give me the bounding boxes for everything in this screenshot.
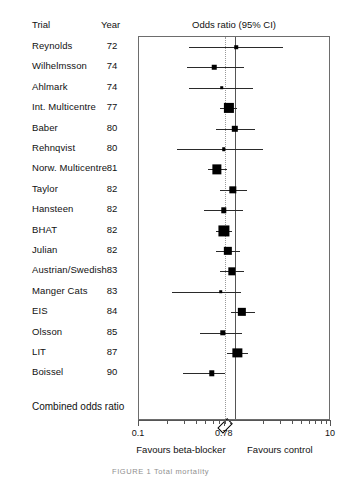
null-effect-line bbox=[235, 37, 236, 419]
study-row bbox=[139, 67, 329, 68]
column-header-trial: Trial bbox=[32, 19, 50, 30]
x-axis-major-tick bbox=[330, 420, 331, 426]
point-estimate-marker bbox=[229, 186, 236, 193]
study-name: Ahlmark bbox=[32, 81, 68, 92]
point-estimate-marker bbox=[221, 207, 226, 212]
forest-plot-figure: Trial Year Odds ratio (95% CI) Reynolds7… bbox=[0, 0, 353, 478]
point-estimate-marker bbox=[219, 225, 230, 236]
column-header-year: Year bbox=[101, 19, 120, 30]
x-axis-minor-tick bbox=[167, 420, 168, 424]
point-estimate-marker bbox=[220, 330, 225, 335]
point-estimate-marker bbox=[228, 268, 235, 275]
study-year: 90 bbox=[101, 366, 123, 377]
study-year: 85 bbox=[101, 326, 123, 337]
favours-left-label: Favours beta-blocker bbox=[136, 444, 225, 455]
point-estimate-marker bbox=[233, 348, 242, 357]
x-axis-minor-tick bbox=[326, 420, 327, 424]
study-name: Hansteen bbox=[32, 203, 73, 214]
x-axis-minor-tick bbox=[213, 420, 214, 424]
point-estimate-marker bbox=[222, 147, 226, 151]
point-estimate-marker bbox=[232, 125, 238, 131]
study-year: 83 bbox=[101, 264, 123, 275]
study-name: Boissel bbox=[32, 366, 63, 377]
point-estimate-marker bbox=[220, 86, 224, 90]
study-row bbox=[139, 169, 329, 170]
x-axis-minor-tick bbox=[309, 420, 310, 424]
x-axis-minor-tick bbox=[225, 420, 226, 424]
study-name: Manger Cats bbox=[32, 285, 87, 296]
study-row bbox=[139, 129, 329, 130]
point-estimate-marker bbox=[234, 45, 238, 49]
study-name: Baber bbox=[32, 122, 58, 133]
study-year: 77 bbox=[101, 101, 123, 112]
study-name: Julian bbox=[32, 244, 57, 255]
study-row bbox=[139, 251, 329, 252]
point-estimate-marker bbox=[224, 247, 232, 255]
confidence-interval-line bbox=[183, 373, 224, 374]
x-axis-minor-tick bbox=[263, 420, 264, 424]
x-axis-minor-tick bbox=[205, 420, 206, 424]
x-axis-major-tick bbox=[224, 420, 225, 426]
study-row bbox=[139, 108, 329, 109]
study-name: Wilhelmsson bbox=[32, 60, 87, 71]
x-axis-minor-tick bbox=[292, 420, 293, 424]
study-year: 82 bbox=[101, 183, 123, 194]
study-name: EIS bbox=[32, 305, 48, 316]
x-axis-major-tick bbox=[138, 420, 139, 426]
study-name: Olsson bbox=[32, 326, 62, 337]
study-year: 83 bbox=[101, 285, 123, 296]
study-row bbox=[139, 210, 329, 211]
study-year: 72 bbox=[101, 40, 123, 51]
study-year: 84 bbox=[101, 305, 123, 316]
study-row bbox=[139, 231, 329, 232]
study-year: 80 bbox=[101, 142, 123, 153]
x-axis-minor-tick bbox=[219, 420, 220, 424]
confidence-interval-line bbox=[172, 292, 241, 293]
point-estimate-marker bbox=[209, 371, 214, 376]
x-axis-minor-tick bbox=[280, 420, 281, 424]
study-year: 74 bbox=[101, 60, 123, 71]
study-row bbox=[139, 149, 329, 150]
study-name: Reynolds bbox=[32, 40, 72, 51]
study-row bbox=[139, 271, 329, 272]
study-row bbox=[139, 333, 329, 334]
point-estimate-marker bbox=[219, 290, 223, 294]
study-year: 80 bbox=[101, 122, 123, 133]
x-axis-minor-tick bbox=[230, 420, 231, 424]
favours-right-label: Favours control bbox=[247, 444, 312, 455]
figure-caption: FIGURE 1 Total mortality bbox=[112, 467, 292, 478]
point-estimate-marker bbox=[212, 165, 221, 174]
x-axis-tick-label: 0.1 bbox=[132, 428, 145, 438]
x-axis-minor-tick bbox=[184, 420, 185, 424]
study-row bbox=[139, 190, 329, 191]
x-axis-minor-tick bbox=[321, 420, 322, 424]
study-row bbox=[139, 373, 329, 374]
study-row bbox=[139, 312, 329, 313]
study-name: Taylor bbox=[32, 183, 58, 194]
study-year: 87 bbox=[101, 346, 123, 357]
study-name: Rehnqvist bbox=[32, 142, 75, 153]
study-name: LIT bbox=[32, 346, 46, 357]
plot-title: Odds ratio (95% CI) bbox=[138, 19, 330, 30]
study-name: BHAT bbox=[32, 224, 57, 235]
study-name: Norw. Multicentre bbox=[32, 162, 107, 173]
x-axis-tick-label: 0.78 bbox=[215, 428, 233, 438]
combined-odds-ratio-label: Combined odds ratio bbox=[32, 401, 124, 412]
point-estimate-marker bbox=[212, 65, 217, 70]
study-row bbox=[139, 292, 329, 293]
confidence-interval-line bbox=[177, 149, 263, 150]
x-axis-tick-label: 10 bbox=[325, 428, 335, 438]
study-year: 74 bbox=[101, 81, 123, 92]
study-year: 81 bbox=[101, 162, 123, 173]
study-row bbox=[139, 47, 329, 48]
study-year: 82 bbox=[101, 203, 123, 214]
point-estimate-marker bbox=[224, 103, 234, 113]
study-name: Int. Multicentre bbox=[32, 101, 96, 112]
study-name: Austrian/Swedish bbox=[32, 264, 107, 275]
study-year: 82 bbox=[101, 244, 123, 255]
study-row bbox=[139, 353, 329, 354]
point-estimate-marker bbox=[238, 308, 246, 316]
x-axis-minor-tick bbox=[196, 420, 197, 424]
plot-area bbox=[138, 36, 330, 420]
study-row bbox=[139, 88, 329, 89]
